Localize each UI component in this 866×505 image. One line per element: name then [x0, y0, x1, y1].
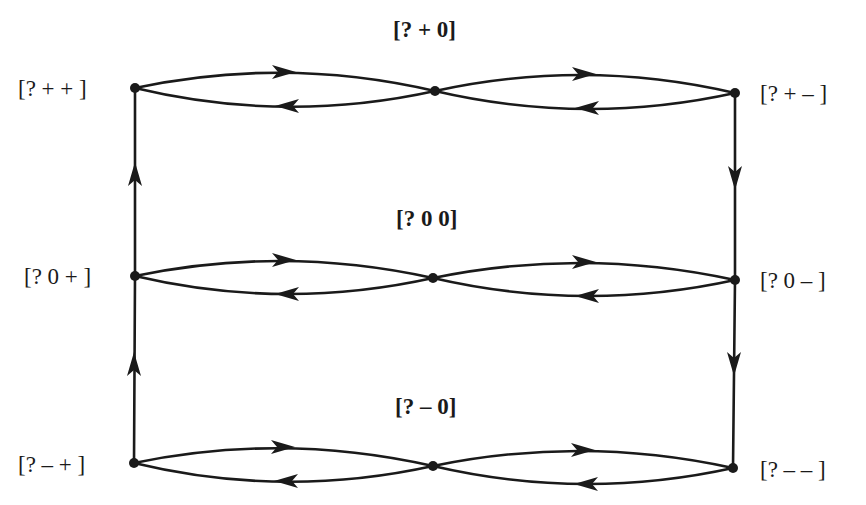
edge-zz-to-zp — [135, 276, 433, 294]
edge-zm-to-zz — [433, 278, 735, 296]
node-mp — [129, 458, 139, 468]
edge-p0-to-pm — [435, 75, 735, 93]
edge-m0-to-mm — [433, 451, 733, 468]
node-zz — [428, 273, 438, 283]
node-pp — [130, 83, 140, 93]
label-m0: [? – 0] — [395, 395, 456, 418]
edge-mm-to-m0 — [433, 466, 733, 484]
label-mp: [? – + ] — [18, 453, 85, 476]
label-mm: [? – – ] — [760, 458, 826, 481]
label-zz: [? 0 0] — [396, 207, 457, 230]
edge-mp-to-m0 — [134, 448, 433, 466]
edge-pp-to-p0 — [135, 73, 435, 91]
node-m0 — [428, 461, 438, 471]
node-zp — [130, 271, 140, 281]
edge-zz-to-zm — [433, 263, 735, 280]
node-zm — [730, 275, 740, 285]
label-zm: [? 0 – ] — [760, 269, 826, 292]
label-p0: [? + 0] — [393, 18, 456, 41]
label-zp: [? 0 + ] — [24, 265, 91, 288]
label-pp: [? + + ] — [18, 77, 87, 100]
edge-zp-to-zz — [135, 261, 433, 278]
node-mm — [728, 463, 738, 473]
label-pm: [? + – ] — [760, 82, 827, 105]
node-p0 — [430, 86, 440, 96]
node-pm — [730, 88, 740, 98]
state-diagram — [0, 0, 866, 505]
